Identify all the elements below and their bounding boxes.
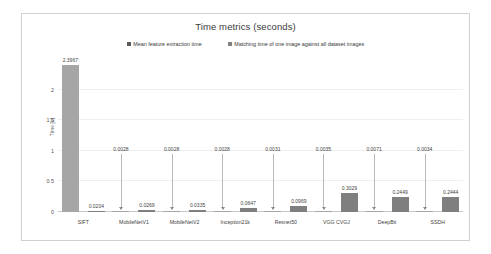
- bar-wrapper: 0.0035: [315, 59, 332, 212]
- bar[interactable]: [62, 65, 79, 212]
- bar-wrapper: 0.0028: [112, 59, 129, 212]
- y-axis-tick-label: 0.5: [47, 178, 55, 184]
- plot-area: 00.511.52 2.39670.0204SIFT0.00280.0269Mo…: [58, 59, 463, 212]
- bar[interactable]: [88, 211, 105, 212]
- legend-item-mean-feature-extraction-time: Mean feature extraction time: [127, 41, 202, 47]
- chart-container: Time metrics (seconds) Mean feature extr…: [21, 13, 470, 241]
- x-axis-category-label: VGG CVGJ: [311, 219, 362, 225]
- x-axis-category-label: MobileNetV2: [159, 219, 210, 225]
- bar-wrapper: 0.0031: [264, 59, 281, 212]
- bar-group: 0.00280.0335MobileNetV2: [159, 59, 210, 212]
- bar-wrapper: 2.3967: [62, 59, 79, 212]
- bar-group: 0.00280.0647Inception21k: [210, 59, 261, 212]
- bar-group: 0.00280.0269MobileNetV1: [109, 59, 160, 212]
- leader-line: [273, 154, 274, 209]
- y-axis-tick-label: 1.5: [47, 117, 55, 123]
- bar-value-label: 0.0028: [113, 146, 128, 152]
- bar[interactable]: [264, 211, 281, 212]
- bar-value-label: 2.3967: [63, 57, 78, 63]
- leader-line: [323, 154, 324, 209]
- chart-legend: Mean feature extraction time Matching ti…: [22, 41, 469, 47]
- x-axis-category-label: DeepBit: [362, 219, 413, 225]
- bar-group: 0.00310.0969Resnet50: [261, 59, 312, 212]
- bar-wrapper: 0.2444: [442, 59, 459, 212]
- bar-wrapper: 0.0335: [189, 59, 206, 212]
- bar-value-label: 0.0071: [366, 146, 381, 152]
- bar[interactable]: [366, 211, 383, 212]
- bar-group: 0.00340.2444SSDH: [412, 59, 463, 212]
- bar-value-label: 0.2444: [443, 189, 458, 195]
- bar[interactable]: [189, 210, 206, 212]
- leader-line: [374, 154, 375, 209]
- x-axis-category-label: MobileNetV1: [109, 219, 160, 225]
- bar-wrapper: 0.2449: [392, 59, 409, 212]
- bar-group: 2.39670.0204SIFT: [58, 59, 109, 212]
- bar-value-label: 0.0028: [215, 146, 230, 152]
- x-axis-category-label: Inception21k: [210, 219, 261, 225]
- x-axis-category-label: Resnet50: [261, 219, 312, 225]
- legend-swatch-icon: [228, 42, 232, 46]
- bar-group: 0.00350.3029VGG CVGJ: [311, 59, 362, 212]
- bar[interactable]: [416, 211, 433, 212]
- bar-wrapper: 0.0071: [366, 59, 383, 212]
- bar-wrapper: 0.0647: [240, 59, 257, 212]
- bar-value-label: 0.0035: [316, 146, 331, 152]
- bar[interactable]: [240, 208, 257, 212]
- y-axis-tick-label: 1: [51, 148, 54, 154]
- bar[interactable]: [442, 197, 459, 212]
- bar-value-label: 0.2449: [392, 189, 407, 195]
- bar-wrapper: 0.0034: [416, 59, 433, 212]
- bar-wrapper: 0.0969: [290, 59, 307, 212]
- bars: 0.00280.0269: [109, 59, 160, 212]
- y-axis-tick-label: 0: [51, 209, 54, 215]
- bar[interactable]: [290, 206, 307, 212]
- bar[interactable]: [341, 193, 358, 212]
- bars: 0.00340.2444: [412, 59, 463, 212]
- bars: 0.00710.2449: [362, 59, 413, 212]
- bar[interactable]: [315, 211, 332, 212]
- bar[interactable]: [392, 197, 409, 212]
- bar-wrapper: 0.0028: [163, 59, 180, 212]
- bar-value-label: 0.3029: [342, 185, 357, 191]
- bar-wrapper: 0.3029: [341, 59, 358, 212]
- bars: 2.39670.0204: [58, 59, 109, 212]
- bar-wrapper: 0.0269: [138, 59, 155, 212]
- bars: 0.00280.0647: [210, 59, 261, 212]
- bar-value-label: 0.0647: [241, 200, 256, 206]
- leader-line: [222, 154, 223, 209]
- legend-label: Mean feature extraction time: [133, 41, 201, 47]
- legend-label: Matching time of one image against all d…: [234, 41, 364, 47]
- bar[interactable]: [163, 211, 180, 212]
- bars: 0.00350.3029: [311, 59, 362, 212]
- leader-line: [172, 154, 173, 209]
- x-axis-category-label: SIFT: [58, 219, 109, 225]
- bar-value-label: 0.0034: [417, 146, 432, 152]
- chart-title: Time metrics (seconds): [22, 21, 469, 32]
- bar-value-label: 0.0269: [139, 202, 154, 208]
- bars: 0.00310.0969: [261, 59, 312, 212]
- bar-value-label: 0.0335: [190, 202, 205, 208]
- bar-value-label: 0.0028: [164, 146, 179, 152]
- bar-wrapper: 0.0204: [88, 59, 105, 212]
- bar-value-label: 0.0204: [89, 203, 104, 209]
- bar[interactable]: [112, 211, 129, 212]
- bar[interactable]: [138, 210, 155, 212]
- bar-wrapper: 0.0028: [214, 59, 231, 212]
- bar[interactable]: [214, 211, 231, 212]
- x-axis-category-label: SSDH: [412, 219, 463, 225]
- bar-group: 0.00710.2449DeepBit: [362, 59, 413, 212]
- bar-groups: 2.39670.0204SIFT0.00280.0269MobileNetV10…: [58, 59, 463, 212]
- legend-item-matching-time: Matching time of one image against all d…: [228, 41, 365, 47]
- y-axis-tick-label: 2: [51, 87, 54, 93]
- leader-line: [121, 154, 122, 209]
- leader-line: [425, 154, 426, 209]
- legend-swatch-icon: [127, 42, 131, 46]
- bar-value-label: 0.0031: [265, 146, 280, 152]
- bar-value-label: 0.0969: [291, 198, 306, 204]
- bars: 0.00280.0335: [159, 59, 210, 212]
